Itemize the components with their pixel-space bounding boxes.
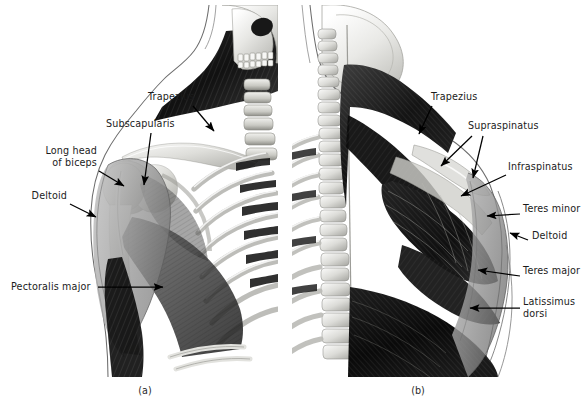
label-teres-minor: Teres minor — [523, 203, 580, 215]
label-latissimus-dorsi: Latissimus dorsi — [523, 296, 575, 319]
label-text: Infraspinatus — [508, 161, 573, 172]
label-text: Subscapularis — [106, 118, 175, 129]
label-teres-major: Teres major — [523, 265, 580, 277]
caption-text: (b) — [411, 385, 425, 396]
label-subscapularis: Subscapularis — [106, 118, 175, 130]
label-pectoralis-major: Pectoralis major — [11, 281, 91, 293]
label-text-line2: of biceps — [0, 157, 97, 169]
anatomy-figure: Trapezius Subscapularis Long head of bic… — [0, 0, 582, 408]
label-text: Deltoid — [532, 230, 567, 241]
label-text: Teres minor — [523, 203, 580, 214]
label-long-head-of-biceps: Long head of biceps — [0, 145, 97, 168]
label-trapezius-posterior: Trapezius — [431, 91, 477, 103]
label-text-line2: dorsi — [523, 308, 575, 320]
label-infraspinatus: Infraspinatus — [508, 161, 573, 173]
label-text: Trapezius — [431, 91, 477, 102]
posterior-illustration — [292, 5, 578, 377]
label-text: Teres major — [523, 265, 580, 276]
label-text: Deltoid — [32, 190, 67, 201]
label-trapezius-anterior: Trapezius — [148, 91, 194, 103]
label-text: Trapezius — [148, 91, 194, 102]
label-text: Pectoralis major — [11, 281, 91, 292]
label-supraspinatus: Supraspinatus — [468, 120, 539, 132]
label-text-line1: Latissimus — [523, 296, 575, 308]
label-deltoid-posterior: Deltoid — [532, 230, 567, 242]
caption-panel-b: (b) — [398, 385, 438, 396]
caption-panel-a: (a) — [125, 385, 165, 396]
caption-text: (a) — [138, 385, 151, 396]
label-text: Supraspinatus — [468, 120, 539, 131]
label-text-line1: Long head — [0, 145, 97, 157]
label-deltoid-anterior: Deltoid — [0, 190, 67, 202]
panel-posterior — [292, 5, 578, 377]
